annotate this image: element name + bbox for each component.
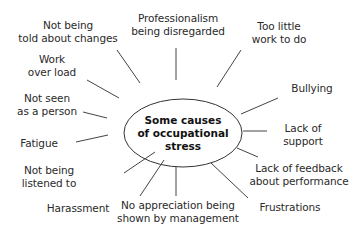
cause-harassment: Harassment: [38, 202, 118, 215]
spoke-not-seen-as-person: [83, 112, 107, 118]
spoke-lack-of-feedback: [237, 148, 258, 157]
cause-not-listened-to: Not being listened to: [12, 164, 86, 190]
cause-work-overload: Work over load: [22, 53, 82, 79]
spoke-bullying: [241, 98, 278, 114]
spoke-fatigue: [76, 135, 108, 142]
cause-lack-of-feedback: Lack of feedback about performance: [244, 162, 354, 188]
cause-not-seen-as-person: Not seen as a person: [10, 92, 84, 118]
spoke-frustrations: [211, 163, 248, 198]
cause-professionalism: Professionalism being disregarded: [128, 12, 228, 38]
cause-too-little-work: Too little work to do: [239, 20, 319, 46]
cause-no-appreciation: No appreciation being shown by managemen…: [108, 199, 248, 225]
spoke-work-overload: [87, 80, 119, 98]
cause-fatigue: Fatigue: [14, 137, 64, 150]
cause-bullying: Bullying: [277, 82, 347, 95]
cause-frustrations: Frustrations: [245, 201, 335, 214]
spoke-harassment: [140, 160, 164, 196]
spoke-too-little-work: [217, 50, 241, 87]
cause-lack-of-support: Lack of support: [268, 122, 338, 148]
cause-told-about-changes: Not being told about changes: [18, 19, 118, 45]
center-title: Some causes of occupational stress: [133, 114, 233, 153]
spoke-told-about-changes: [117, 50, 140, 83]
spoke-not-listened-to: [124, 152, 155, 173]
